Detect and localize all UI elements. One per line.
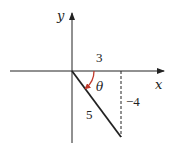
angle-arc-icon — [86, 71, 94, 88]
adjacent-label: 3 — [96, 50, 103, 65]
hypotenuse-label: 5 — [86, 107, 93, 122]
x-axis-label: x — [155, 77, 163, 92]
diagram-canvas: y x 3 θ −4 5 — [0, 0, 178, 150]
opposite-label: −4 — [126, 94, 140, 109]
angle-label: θ — [96, 80, 104, 94]
y-axis-label: y — [56, 8, 65, 23]
